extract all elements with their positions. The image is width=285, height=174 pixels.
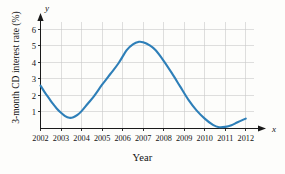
- x-tick-labels: 2002200320042005200620072008200920102011…: [32, 134, 254, 143]
- y-tick-label: 1: [32, 107, 36, 117]
- x-tick-label: 2005: [94, 134, 110, 143]
- chart-plot-area: 2002200320042005200620072008200920102011…: [0, 0, 285, 174]
- y-tick-label: 4: [32, 58, 37, 68]
- y-tick-label: 3: [32, 74, 36, 84]
- x-axis-variable-label: x: [271, 124, 276, 134]
- x-tick-label: 2008: [155, 134, 171, 143]
- axes: [37, 13, 266, 132]
- interest-rate-chart-figure: 2002200320042005200620072008200920102011…: [0, 0, 285, 174]
- x-tick-label: 2010: [197, 134, 213, 143]
- y-tick-label: 5: [32, 41, 36, 51]
- x-tick-label: 2012: [238, 134, 254, 143]
- y-tick-label: 6: [32, 25, 37, 35]
- x-axis-title: Year: [0, 152, 285, 163]
- x-tick-label: 2007: [135, 134, 151, 143]
- y-axis-variable-label: y: [44, 3, 49, 13]
- x-tick-label: 2006: [114, 134, 130, 143]
- x-tick-label: 2003: [53, 134, 69, 143]
- x-tick-label: 2011: [217, 134, 233, 143]
- y-axis-title: 3-month CD interest rate (%): [10, 6, 21, 130]
- y-tick-labels: 123456: [32, 25, 37, 118]
- x-tick-label: 2004: [73, 134, 89, 143]
- x-tick-label: 2002: [32, 134, 48, 143]
- x-axis-arrowhead: [258, 125, 266, 131]
- x-tick-label: 2009: [176, 134, 192, 143]
- y-axis-arrowhead: [37, 13, 43, 21]
- y-tick-label: 2: [32, 91, 36, 101]
- gridlines: [41, 22, 255, 129]
